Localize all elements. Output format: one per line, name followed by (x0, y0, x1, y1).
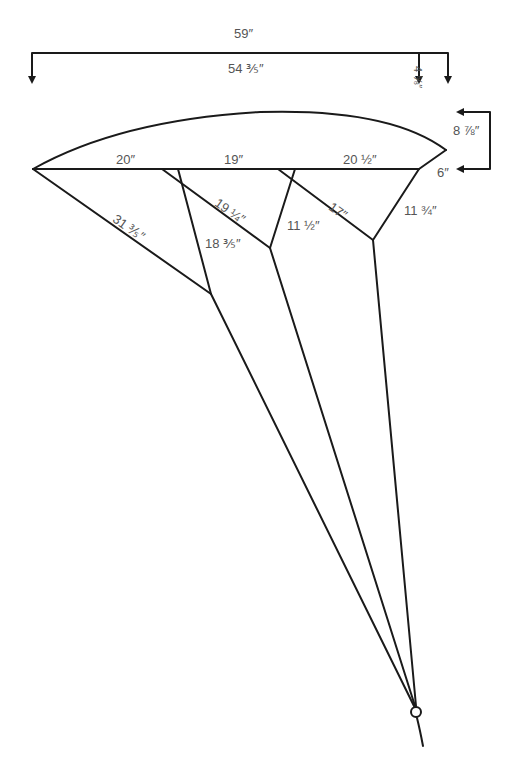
tow-ring-icon (411, 707, 421, 717)
segment-label-1: 20″ (116, 153, 135, 166)
arrow-down-icon (444, 76, 452, 84)
lead-line-2 (270, 248, 415, 706)
bridle-label-4: 11 ½″ (287, 219, 320, 232)
arrow-left-icon (456, 108, 464, 116)
offset-label: 4 ⅝″ (412, 66, 423, 88)
segment-label-2: 19″ (224, 153, 243, 166)
tip-label: 6″ (437, 166, 449, 179)
bridle-line-4 (270, 169, 295, 248)
height-dimension-line (462, 112, 490, 169)
bridle-label-6: 11 ¾″ (404, 204, 437, 217)
inner-span-label: 54 ⅗″ (228, 62, 264, 75)
tow-line (417, 718, 423, 746)
kite-bridle-diagram: 59″ 54 ⅗″ 4 ⅝″ 8 ⅞″ 6″ 20″ 19″ 20 ½″ 31 … (0, 0, 514, 771)
segment-label-3: 20 ½″ (343, 153, 377, 166)
arrow-down-icon (28, 76, 36, 84)
bridle-label-3: 18 ⅗″ (205, 237, 241, 250)
height-label: 8 ⅞″ (453, 124, 479, 137)
diagram-canvas (0, 0, 514, 771)
arrow-left-icon (456, 165, 464, 173)
span-label: 59″ (234, 27, 253, 40)
